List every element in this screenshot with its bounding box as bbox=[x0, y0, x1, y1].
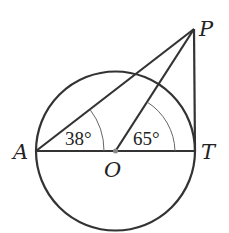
point-label-P: P bbox=[198, 17, 214, 41]
point-label-O: O bbox=[104, 158, 121, 182]
point-label-T: T bbox=[201, 140, 217, 164]
geometry-diagram: 38° 65° A O T P bbox=[0, 0, 229, 233]
diagram-canvas: 38° 65° A O T P bbox=[0, 0, 229, 233]
tangent-TP bbox=[194, 29, 195, 151]
angle-arc-A bbox=[90, 110, 104, 152]
angle-label-65: 65° bbox=[133, 128, 160, 149]
segment-AP bbox=[36, 29, 194, 151]
center-dot bbox=[113, 149, 118, 154]
point-label-A: A bbox=[11, 140, 28, 164]
angle-label-38: 38° bbox=[65, 128, 92, 149]
